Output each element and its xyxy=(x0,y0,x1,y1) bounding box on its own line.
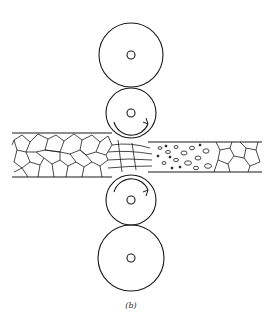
new-grains xyxy=(214,142,260,172)
rolling-mill-diagram xyxy=(0,0,273,327)
strip xyxy=(12,133,262,177)
bottom-backup-roll xyxy=(98,225,164,291)
equiaxed-grains xyxy=(12,134,112,177)
top-backup-roll xyxy=(99,23,163,87)
bottom-work-roll xyxy=(106,175,156,225)
figure-label: (b) xyxy=(0,301,262,310)
recrystallizing-grains xyxy=(157,144,212,170)
deformed-grains xyxy=(108,140,152,172)
top-work-roll xyxy=(106,88,156,138)
